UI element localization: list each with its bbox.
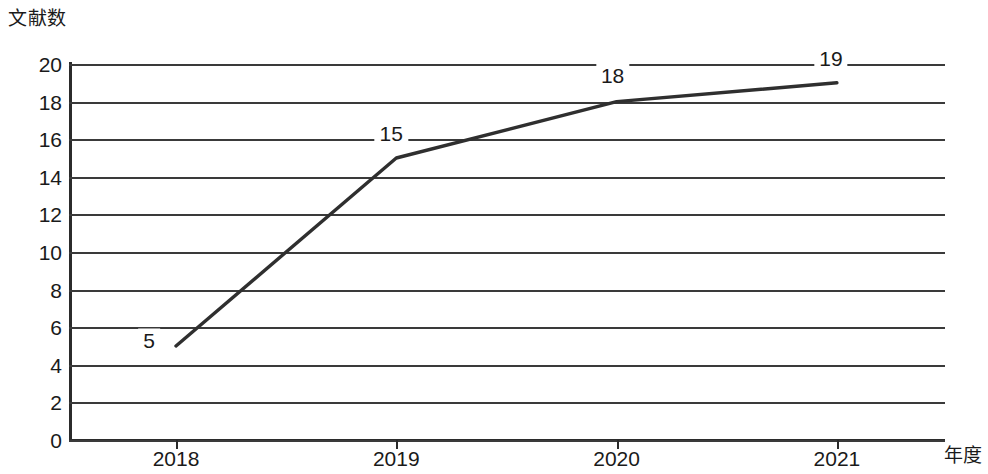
gridline xyxy=(69,214,945,216)
data-point-label: 5 xyxy=(138,329,160,352)
gridline xyxy=(69,139,945,141)
data-point-label: 15 xyxy=(375,122,408,145)
gridline xyxy=(69,102,945,104)
gridline xyxy=(69,440,945,442)
y-axis-tick-label: 18 xyxy=(6,92,62,113)
gridline xyxy=(69,252,945,254)
y-axis-tick-label: 14 xyxy=(6,167,62,188)
x-axis-tick-label: 2018 xyxy=(153,448,200,470)
gridline xyxy=(69,290,945,292)
y-axis-tick-labels: 20181614121086420 xyxy=(0,0,62,474)
y-axis-tick-label: 8 xyxy=(6,280,62,301)
x-axis-tick-label: 2020 xyxy=(593,448,640,470)
y-axis-tick-label: 12 xyxy=(6,204,62,225)
gridline xyxy=(69,177,945,179)
x-axis-tick-label: 2019 xyxy=(373,448,420,470)
y-axis-tick-label: 6 xyxy=(6,317,62,338)
y-axis-tick-label: 0 xyxy=(6,430,62,451)
data-point-label: 19 xyxy=(814,46,847,69)
gridline xyxy=(69,402,945,404)
y-axis-tick-label: 16 xyxy=(6,129,62,150)
plot-area xyxy=(69,64,945,440)
x-axis-tick-label: 2021 xyxy=(814,448,861,470)
gridline xyxy=(69,365,945,367)
y-axis-tick-label: 10 xyxy=(6,242,62,263)
gridline xyxy=(69,327,945,329)
line-chart: 文献数 20181614121086420 2018201920202021 5… xyxy=(0,0,988,474)
y-axis-tick-label: 20 xyxy=(6,54,62,75)
y-axis-tick-label: 2 xyxy=(6,392,62,413)
y-axis-tick-label: 4 xyxy=(6,355,62,376)
x-axis-title: 年度 xyxy=(944,444,982,468)
data-point-label: 18 xyxy=(596,63,629,86)
